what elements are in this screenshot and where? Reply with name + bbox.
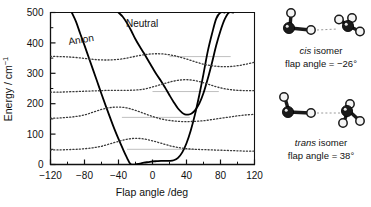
y-axis-title-superscript: −1 — [1, 57, 10, 66]
y-axis-title: Energy / cm−1 — [1, 57, 14, 122]
x-tick-label: 0 — [150, 170, 156, 181]
vibrational-level-lines — [122, 57, 231, 150]
cis-atom-center-right-highlight — [345, 23, 348, 26]
y-tick-label: 500 — [27, 7, 44, 18]
cis-atom-o-right-left-frag — [307, 26, 315, 34]
trans-isomer-title-rest: isomer — [316, 137, 347, 148]
cis-atom-o-upper-left — [287, 9, 295, 17]
curve-vibrational-level-v-3 — [51, 54, 255, 67]
axis-tick-labels: −120−80−40040801200100200300400500 — [27, 7, 263, 180]
x-tick-label: 80 — [215, 170, 227, 181]
trans-atom-o-right-left-frag — [307, 109, 315, 117]
cis-isomer-caption: flap angle = −26° — [285, 58, 357, 69]
y-tick-label: 0 — [38, 159, 44, 170]
cis-isomer-title-italic: cis — [300, 45, 312, 56]
curve-vibrational-level-v-1 — [51, 107, 255, 122]
cis-isomer-structure — [283, 9, 364, 36]
trans-atom-center-right-highlight — [344, 108, 347, 111]
cis-atom-center-left-highlight — [286, 25, 289, 28]
trans-isomer-title: trans isomer — [295, 137, 347, 148]
trans-atom-center-left — [282, 106, 293, 117]
x-tick-label: −80 — [76, 170, 93, 181]
cis-isomer-title-rest: isomer — [311, 45, 342, 56]
y-axis-title-main: Energy / cm — [2, 65, 14, 121]
x-axis-title: Flap angle /deg — [116, 186, 189, 198]
y-tick-label: 400 — [27, 38, 44, 49]
x-tick-label: 120 — [246, 170, 263, 181]
x-tick-label: −40 — [110, 170, 127, 181]
cis-atom-o-right-a — [335, 15, 343, 23]
trans-atom-o-right-a — [339, 119, 347, 127]
cis-atom-center-left — [283, 22, 294, 33]
y-tick-label: 300 — [27, 68, 44, 79]
trans-atom-center-right — [341, 105, 352, 116]
anion-curve-label: Anion — [68, 32, 95, 47]
potential-energy-figure: −120−80−40040801200100200300400500 Flap … — [0, 0, 371, 207]
y-tick-label: 200 — [27, 98, 44, 109]
trans-atom-o-right-b — [356, 117, 364, 125]
cis-isomer-title: cis isomer — [300, 45, 343, 56]
trans-atom-o-upper-left — [280, 93, 288, 101]
trans-isomer-title-italic: trans — [295, 137, 316, 148]
x-tick-label: −120 — [39, 170, 62, 181]
cis-atom-o-right-c — [356, 27, 364, 35]
neutral-curve-label: Neutral — [126, 18, 158, 29]
trans-atom-center-left-highlight — [285, 109, 288, 112]
cis-atom-center-right — [342, 20, 353, 31]
trans-isomer-structure — [280, 93, 364, 127]
y-tick-label: 100 — [27, 129, 44, 140]
x-tick-label: 40 — [181, 170, 193, 181]
trans-isomer-caption: flap angle = 38° — [288, 150, 355, 161]
curve-vibrational-level-v-2 — [51, 80, 255, 92]
svg-text:Energy / cm−1: Energy / cm−1 — [1, 57, 14, 122]
curve-anion — [72, 12, 225, 165]
figure-root: −120−80−40040801200100200300400500 Flap … — [0, 0, 371, 207]
cis-hydrogen-bond — [317, 29, 338, 30]
